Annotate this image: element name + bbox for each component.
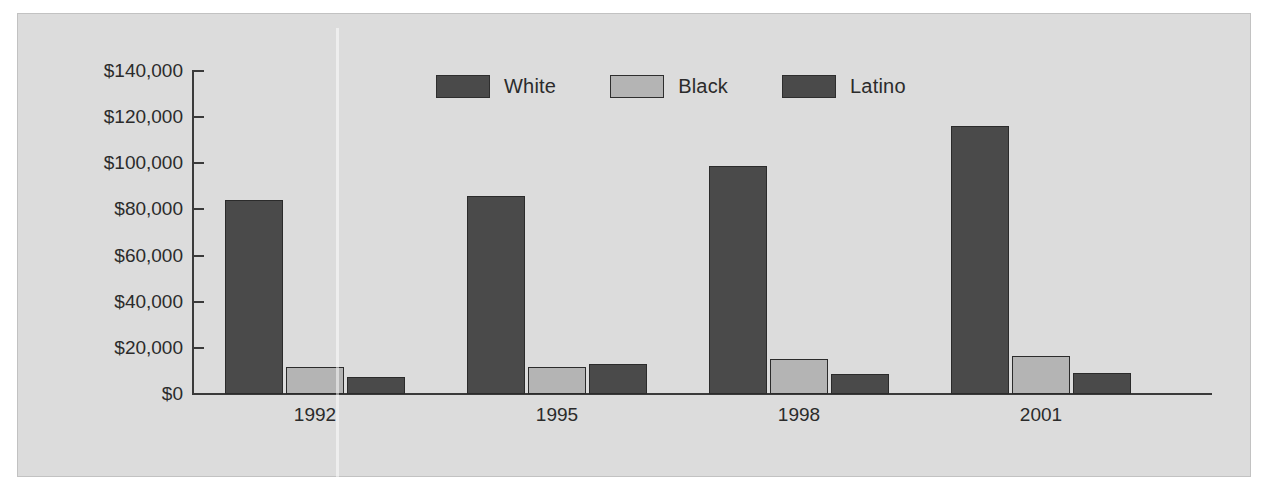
- bar-latino-2001: [1073, 373, 1131, 394]
- legend-label: Latino: [850, 75, 906, 98]
- legend-entry-white: White: [436, 75, 556, 98]
- bar-black-1995: [528, 367, 586, 394]
- legend-label: Black: [678, 75, 728, 98]
- bar-black-2001: [1012, 356, 1070, 394]
- legend-swatch-icon: [610, 75, 664, 98]
- legend-swatch-icon: [436, 75, 490, 98]
- bar-latino-1995: [589, 364, 647, 394]
- chart-figure: $0$20,000$40,000$60,000$80,000$100,000$1…: [0, 0, 1268, 491]
- bar-white-1995: [467, 196, 525, 394]
- bar-latino-1998: [831, 374, 889, 394]
- scan-seam-artifact: [336, 28, 339, 478]
- bar-white-1992: [225, 200, 283, 394]
- chart-legend: WhiteBlackLatino: [436, 71, 906, 101]
- legend-entry-latino: Latino: [782, 75, 906, 98]
- legend-swatch-icon: [782, 75, 836, 98]
- bar-latino-1992: [347, 377, 405, 394]
- x-axis-tick-label: 1998: [739, 404, 859, 426]
- chart-panel: $0$20,000$40,000$60,000$80,000$100,000$1…: [17, 13, 1251, 477]
- bar-white-1998: [709, 166, 767, 394]
- x-axis-tick-label: 1995: [497, 404, 617, 426]
- x-axis-tick-label: 1992: [255, 404, 375, 426]
- legend-label: White: [504, 75, 556, 98]
- x-axis-tick-label: 2001: [981, 404, 1101, 426]
- bar-black-1998: [770, 359, 828, 394]
- bar-white-2001: [951, 126, 1009, 394]
- legend-entry-black: Black: [610, 75, 728, 98]
